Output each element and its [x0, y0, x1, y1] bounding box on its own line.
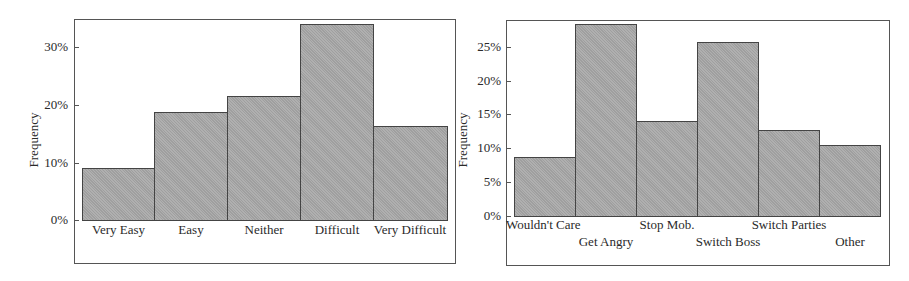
bar-stop-mob: [636, 121, 698, 217]
bar-switch-parties: [758, 130, 820, 217]
bar-switch-boss: [697, 42, 759, 217]
right-ytick-25: 25%: [461, 39, 501, 55]
right-ytick-20: 20%: [461, 73, 501, 89]
bar-wouldnt-care: [514, 157, 576, 217]
right-tickmark: [506, 182, 511, 183]
xlabel-switch-boss: Switch Boss: [690, 234, 766, 250]
right-tickmark: [506, 114, 511, 115]
right-tickmark: [506, 47, 511, 48]
right-ytick-10: 10%: [461, 140, 501, 156]
bar-get-angry: [575, 24, 637, 217]
right-tickmark: [506, 148, 511, 149]
right-tickmark: [506, 81, 511, 82]
right-ytick-0: 0%: [461, 208, 501, 224]
xlabel-get-angry: Get Angry: [570, 234, 642, 250]
right-chart: Frequency 0% 5% 10% 15% 20% 25% Wouldn't…: [0, 0, 909, 281]
right-ytick-15: 15%: [461, 106, 501, 122]
xlabel-stop-mob: Stop Mob.: [632, 217, 702, 233]
right-ytick-5: 5%: [461, 174, 501, 190]
xlabel-other: Other: [819, 234, 881, 250]
xlabel-wouldnt-care: Wouldn't Care: [506, 217, 582, 233]
xlabel-switch-parties: Switch Parties: [748, 217, 830, 233]
bar-other: [819, 145, 881, 217]
